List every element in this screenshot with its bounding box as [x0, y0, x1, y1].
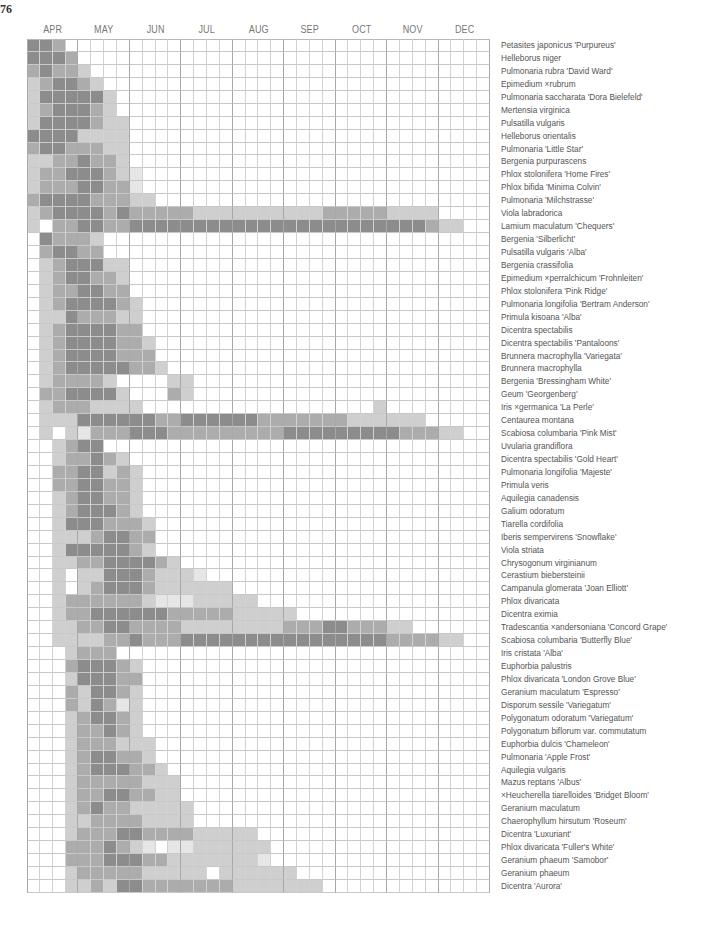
heatmap-cell — [284, 78, 297, 91]
heatmap-cell — [374, 505, 387, 518]
heatmap-cell — [181, 39, 194, 52]
heatmap-cell — [387, 91, 400, 104]
heatmap-cell — [374, 815, 387, 828]
heatmap-cell — [400, 350, 413, 363]
heatmap-cell — [207, 699, 220, 712]
heatmap-cell — [439, 479, 452, 492]
heatmap-cell — [258, 725, 271, 738]
heatmap-cell — [297, 828, 310, 841]
heatmap-cell — [387, 634, 400, 647]
plant-label: Pulmonaria 'Little Star' — [501, 143, 682, 156]
heatmap-cell — [194, 104, 207, 117]
heatmap-cell — [439, 350, 452, 363]
heatmap-cell — [104, 181, 117, 194]
heatmap-cell — [78, 582, 91, 595]
heatmap-cell — [464, 440, 477, 453]
heatmap-cell — [53, 117, 66, 130]
heatmap-cell — [91, 78, 104, 91]
heatmap-cell — [400, 401, 413, 414]
heatmap-cell — [464, 608, 477, 621]
heatmap-cell — [40, 608, 53, 621]
heatmap-cell — [91, 453, 104, 466]
heatmap-cell — [361, 168, 374, 181]
heatmap-cell — [400, 414, 413, 427]
heatmap-cell — [361, 233, 374, 246]
heatmap-cell — [258, 518, 271, 531]
heatmap-cell — [104, 298, 117, 311]
heatmap-cell — [40, 117, 53, 130]
heatmap-cell — [91, 738, 104, 751]
heatmap-cell — [104, 764, 117, 777]
heatmap-cell — [66, 621, 79, 634]
heatmap-cell — [271, 776, 284, 789]
heatmap-cell — [348, 492, 361, 505]
heatmap-cell — [374, 440, 387, 453]
heatmap-cell — [207, 117, 220, 130]
heatmap-cell — [156, 531, 169, 544]
heatmap-cell — [27, 388, 40, 401]
plant-label: Pulsatilla vulgaris — [501, 117, 682, 130]
heatmap-cell — [207, 453, 220, 466]
heatmap-cell — [336, 143, 349, 156]
heatmap-cell — [220, 582, 233, 595]
heatmap-cell — [258, 621, 271, 634]
heatmap-cell — [104, 544, 117, 557]
heatmap-cell — [323, 544, 336, 557]
heatmap-cell — [477, 751, 490, 764]
heatmap-cell — [207, 479, 220, 492]
heatmap-cell — [348, 272, 361, 285]
heatmap-cell — [27, 375, 40, 388]
heatmap-cell — [66, 401, 79, 414]
heatmap-cell — [91, 414, 104, 427]
heatmap-cell — [439, 246, 452, 259]
heatmap-cell — [323, 505, 336, 518]
heatmap-cell — [168, 492, 181, 505]
heatmap-cell — [323, 143, 336, 156]
heatmap-cell — [168, 414, 181, 427]
heatmap-cell — [271, 518, 284, 531]
heatmap-cell — [284, 569, 297, 582]
heatmap-cell — [207, 104, 220, 117]
heatmap-cell — [104, 479, 117, 492]
heatmap-cell — [477, 143, 490, 156]
heatmap-cell — [194, 220, 207, 233]
heatmap-cell — [181, 233, 194, 246]
heatmap-cell — [130, 143, 143, 156]
heatmap-cell — [284, 647, 297, 660]
heatmap-cell — [207, 466, 220, 479]
heatmap-cell — [464, 181, 477, 194]
heatmap-cell — [78, 194, 91, 207]
heatmap-cell — [477, 350, 490, 363]
heatmap-cell — [323, 78, 336, 91]
heatmap-cell — [258, 91, 271, 104]
plant-label: Viola striata — [501, 544, 682, 557]
heatmap-cell — [168, 440, 181, 453]
heatmap-cell — [336, 311, 349, 324]
heatmap-cell — [464, 854, 477, 867]
heatmap-cell — [451, 285, 464, 298]
heatmap-cell — [310, 789, 323, 802]
heatmap-cell — [181, 311, 194, 324]
heatmap-cell — [27, 259, 40, 272]
heatmap-cell — [181, 880, 194, 893]
heatmap-cell — [426, 479, 439, 492]
heatmap-cell — [233, 764, 246, 777]
heatmap-cell — [451, 350, 464, 363]
heatmap-cell — [336, 880, 349, 893]
heatmap-cell — [104, 492, 117, 505]
heatmap-cell — [361, 608, 374, 621]
heatmap-cell — [413, 143, 426, 156]
heatmap-cell — [413, 194, 426, 207]
heatmap-cell — [207, 647, 220, 660]
heatmap-cell — [91, 608, 104, 621]
heatmap-cell — [143, 686, 156, 699]
heatmap-cell — [258, 466, 271, 479]
heatmap-cell — [284, 272, 297, 285]
heatmap-cell — [181, 130, 194, 143]
heatmap-cell — [400, 582, 413, 595]
heatmap-cell — [117, 324, 130, 337]
heatmap-cell — [66, 220, 79, 233]
heatmap-cell — [168, 272, 181, 285]
heatmap-cell — [246, 802, 259, 815]
heatmap-cell — [130, 582, 143, 595]
